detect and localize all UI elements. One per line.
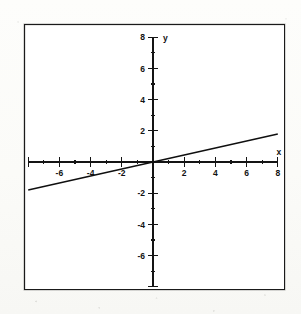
x-axis-label: x [276, 147, 281, 157]
x-tick-label: 6 [244, 168, 249, 178]
plot-content: -6-4-224688642-2-4-6xy [28, 32, 281, 286]
plot-frame: -6-4-224688642-2-4-6xy [24, 24, 285, 290]
y-axis-label: y [163, 33, 168, 43]
y-tick-label: -6 [137, 251, 145, 261]
y-tick-label: 4 [140, 95, 145, 105]
y-tick-label: -4 [137, 220, 145, 230]
y-tick-label: 6 [140, 64, 145, 74]
x-tick-label: 8 [275, 168, 280, 178]
x-tick-label: 4 [213, 168, 218, 178]
graph-page: -6-4-224688642-2-4-6xy [0, 0, 301, 314]
x-tick-label: -6 [56, 168, 64, 178]
y-tick-label: -2 [137, 188, 145, 198]
y-tick-label: 8 [140, 32, 145, 42]
coordinate-plot: -6-4-224688642-2-4-6xy [25, 25, 284, 289]
x-tick-label: 2 [182, 168, 187, 178]
y-tick-label: 2 [140, 126, 145, 136]
